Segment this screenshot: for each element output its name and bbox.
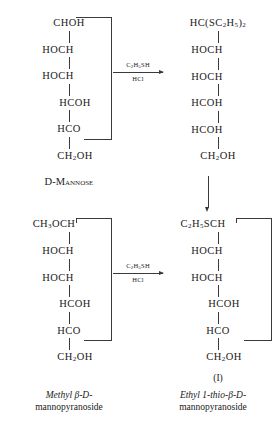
residue: CHOH [52, 18, 85, 29]
caption-line2: mannopyranoside [150, 401, 276, 413]
residue: HC(SC2H5)2 [189, 18, 248, 29]
bond [69, 110, 70, 122]
reagent-below: HCl [113, 276, 163, 284]
residue: C2H5SCH [180, 219, 227, 230]
bond [218, 84, 219, 96]
residue: HOCH [190, 72, 223, 83]
bond [69, 312, 70, 324]
arrow-shaft [113, 273, 163, 274]
residue: HOCH [41, 246, 74, 257]
reaction-arrow-top: C2H5SH HCl [113, 61, 163, 83]
reagent-above: C2H5SH [113, 262, 163, 272]
bond [218, 58, 219, 70]
bond [218, 312, 219, 324]
bond [218, 31, 219, 43]
residue: CH2OH [199, 151, 236, 162]
bond [218, 259, 219, 271]
residue: HOCH [41, 273, 74, 284]
caption-line1: D-Mannose [45, 176, 94, 187]
residue: HCOH [190, 125, 223, 136]
residue: HOCH [41, 45, 74, 56]
bond [218, 137, 219, 149]
bond [69, 84, 70, 96]
residue: HCO [56, 326, 81, 337]
residue: HOCH [190, 246, 223, 257]
residue: CH2OH [205, 352, 242, 363]
bond [69, 137, 70, 149]
reaction-arrow-bottom: C2H5SH HCl [113, 262, 163, 284]
residue: HCO [205, 326, 230, 337]
compound-roman-label: (I) [160, 373, 276, 383]
residue: CH2OH [56, 352, 93, 363]
bond [69, 232, 70, 244]
residue: HCOH [58, 299, 91, 310]
caption-top-left: D-Mannose [0, 176, 138, 188]
residue: HCOH [207, 299, 240, 310]
bond [218, 232, 219, 244]
caption-bottom-right: Ethyl 1-thio-β-D- mannopyranoside [150, 389, 276, 413]
structure-top-right: HC(SC2H5)2 HOCH HOCH HCOH HCOH CH2OH [160, 18, 276, 162]
residue: CH3OCH [32, 219, 77, 230]
structure-bottom-left: CH3OCH HOCH HOCH HCOH HCO CH2OH [0, 219, 138, 363]
caption-line2: mannopyranoside [0, 401, 138, 413]
bond [69, 259, 70, 271]
reagent-below: HCl [113, 75, 163, 83]
bond [218, 338, 219, 350]
bond [69, 57, 70, 69]
arrow-shaft [113, 72, 163, 73]
structure-top-left: CHOH HOCH HOCH HCOH HCO CH2OH [0, 18, 138, 162]
residue: HCOH [190, 98, 223, 109]
bond [69, 31, 70, 43]
bond [69, 285, 70, 297]
reaction-scheme: CHOH HOCH HOCH HCOH HCO CH2OH D-Mannose … [0, 0, 276, 432]
residue: HCOH [58, 98, 91, 109]
bond [218, 285, 219, 297]
caption-bottom-left: Methyl β-D- mannopyranoside [0, 389, 138, 413]
reaction-arrow-vertical [208, 176, 209, 208]
bond [218, 111, 219, 123]
caption-line1: Methyl β-D- [0, 389, 138, 401]
structure-bottom-right: C2H5SCH HOCH HOCH HCOH HCO CH2OH [160, 219, 276, 363]
residue: HOCH [190, 273, 223, 284]
residue: HOCH [190, 45, 223, 56]
residue: HOCH [41, 71, 74, 82]
residue: HCO [56, 124, 81, 135]
caption-line1: Ethyl 1-thio-β-D- [150, 389, 276, 401]
bond [69, 338, 70, 350]
reagent-above: C2H5SH [113, 61, 163, 71]
residue: CH2OH [56, 151, 93, 162]
